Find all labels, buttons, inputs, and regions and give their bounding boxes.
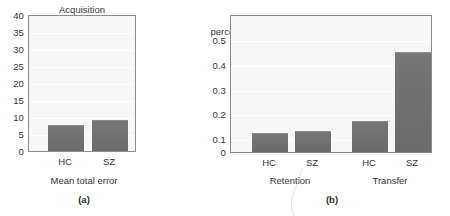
gridline <box>29 101 135 102</box>
panel-a-ytick-10: 10 <box>2 112 24 123</box>
panel-a-ytick-40: 40 <box>2 10 24 21</box>
panel-a-xtick-sz: SZ <box>103 156 115 167</box>
panel-b-ytick-03: 0.3 <box>202 85 226 96</box>
panel-b-xtick-transfer-hc: HC <box>362 157 376 168</box>
panel-a-ytick-15: 15 <box>2 95 24 106</box>
panel-a-caption: (a) <box>78 194 90 205</box>
gridline <box>29 50 135 51</box>
panel-a-ytick-30: 30 <box>2 44 24 55</box>
panel-a: Acquisition 40 35 30 25 20 15 10 5 0 <box>0 0 190 216</box>
panel-b-xtick-retention-sz: SZ <box>306 157 318 168</box>
gridline <box>29 67 135 68</box>
panel-b-group-label-transfer: Transfer <box>372 175 407 186</box>
bar-transfer-sz <box>395 52 431 152</box>
panel-a-ytick-20: 20 <box>2 78 24 89</box>
panel-a-title: Acquisition <box>59 4 105 15</box>
bar-retention-hc <box>252 133 288 152</box>
gridline <box>231 41 431 42</box>
gridline <box>29 118 135 119</box>
panel-b-ytick-02: 0.2 <box>202 109 226 120</box>
panel-b-plot-area <box>230 15 432 153</box>
panel-a-ytick-5: 5 <box>2 129 24 140</box>
panel-a-xaxis-label: Mean total error <box>50 175 117 186</box>
panel-a-xtick-hc: HC <box>58 156 72 167</box>
panel-b: Mean percentage error 0.5 0.4 0.3 0.2 0.… <box>190 0 450 216</box>
panel-b-ytick-01: 0.1 <box>202 134 226 145</box>
panel-b-group-label-retention: Retention <box>270 175 311 186</box>
panel-b-ytick-05: 0.5 <box>202 35 226 46</box>
gridline <box>29 84 135 85</box>
bar-acquisition-sz <box>92 120 128 151</box>
panel-a-ytick-25: 25 <box>2 61 24 72</box>
panel-b-xtick-retention-hc: HC <box>262 157 276 168</box>
panel-b-xtick-transfer-sz: SZ <box>406 157 418 168</box>
panel-b-ytick-0: 0 <box>202 147 226 158</box>
panel-a-plot-area <box>28 15 136 152</box>
figure-two-panel-bar-chart: Acquisition 40 35 30 25 20 15 10 5 0 <box>0 0 450 216</box>
bar-transfer-hc <box>352 121 388 152</box>
bar-retention-sz <box>295 131 331 152</box>
gridline <box>29 33 135 34</box>
bar-acquisition-hc <box>48 125 84 151</box>
panel-b-caption: (b) <box>326 194 338 205</box>
panel-a-ytick-35: 35 <box>2 27 24 38</box>
panel-b-ytick-04: 0.4 <box>202 60 226 71</box>
panel-a-ytick-0: 0 <box>2 146 24 157</box>
